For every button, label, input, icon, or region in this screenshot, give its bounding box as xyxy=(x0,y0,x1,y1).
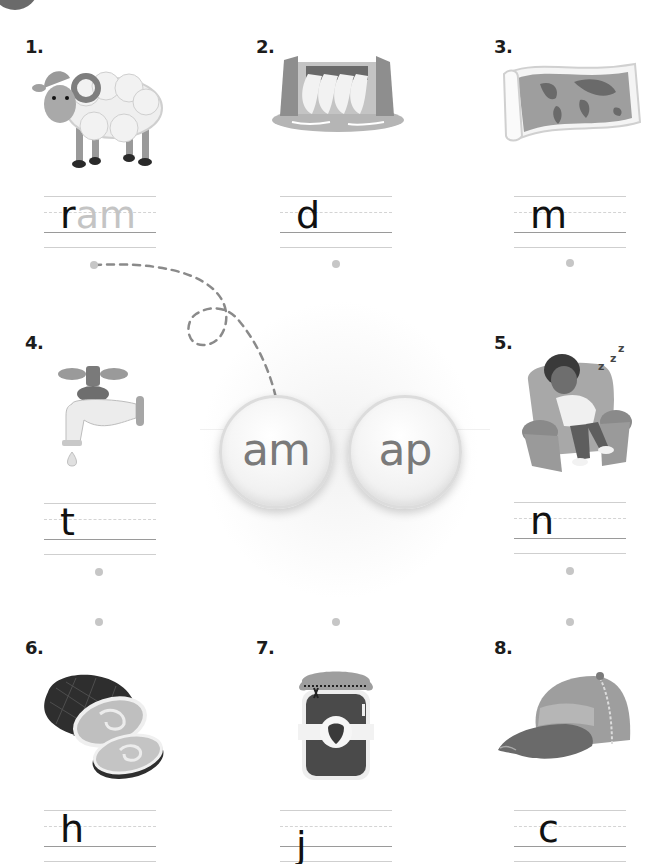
cap-icon xyxy=(496,668,636,768)
word-answer[interactable]: h xyxy=(60,810,84,848)
svg-text:z: z xyxy=(610,352,616,365)
ending-bubble-ap[interactable]: ap xyxy=(348,395,462,509)
svg-text:z: z xyxy=(598,360,604,373)
match-dot[interactable] xyxy=(332,260,340,268)
jam-jar-icon xyxy=(296,660,376,782)
word-answer[interactable]: t xyxy=(60,503,75,541)
dam-icon xyxy=(268,52,408,134)
nap-icon: z z z xyxy=(518,340,638,472)
item-number: 6. xyxy=(25,637,43,658)
ending-label: ap xyxy=(379,424,432,475)
writing-lines: ram xyxy=(44,196,156,248)
item-number: 4. xyxy=(25,332,43,353)
match-dot[interactable] xyxy=(566,567,574,575)
match-dot[interactable] xyxy=(566,259,574,267)
writing-lines: n xyxy=(514,502,626,554)
ram-icon xyxy=(34,58,164,170)
word-answer[interactable]: j xyxy=(296,826,307,864)
ending-label: am xyxy=(242,424,310,475)
writing-lines: m xyxy=(514,196,626,248)
word-answer[interactable]: d xyxy=(296,196,320,234)
writing-lines: h xyxy=(44,810,156,862)
word-answer[interactable]: m xyxy=(530,196,567,234)
match-dot[interactable] xyxy=(95,568,103,576)
word-answer[interactable]: ram xyxy=(60,196,136,234)
ham-icon xyxy=(36,668,168,784)
match-dot[interactable] xyxy=(566,618,574,626)
match-dot[interactable] xyxy=(95,618,103,626)
ending-bubble-am[interactable]: am xyxy=(219,395,333,509)
item-number: 8. xyxy=(494,637,512,658)
tap-icon xyxy=(52,360,152,472)
match-dot[interactable] xyxy=(90,261,98,269)
item-number: 1. xyxy=(25,36,43,57)
map-icon xyxy=(500,52,642,152)
writing-lines: c xyxy=(514,810,626,862)
word-answer[interactable]: c xyxy=(538,810,559,848)
writing-lines: d xyxy=(280,196,392,248)
word-answer[interactable]: n xyxy=(530,502,554,540)
svg-text:z: z xyxy=(618,342,624,355)
item-number: 7. xyxy=(256,637,274,658)
writing-lines: j xyxy=(280,810,392,862)
match-dot[interactable] xyxy=(332,618,340,626)
writing-lines: t xyxy=(44,503,156,555)
item-number: 5. xyxy=(494,332,512,353)
